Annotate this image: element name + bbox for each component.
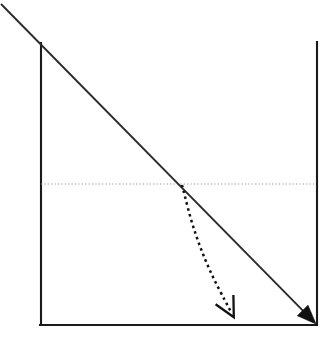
demand-curve <box>1 4 308 316</box>
diagram-canvas <box>0 0 335 350</box>
demand-curve-group <box>1 4 316 324</box>
shift-arrow <box>182 185 231 312</box>
diagram-figure <box>0 0 335 350</box>
shift-arrow-group <box>182 185 234 317</box>
